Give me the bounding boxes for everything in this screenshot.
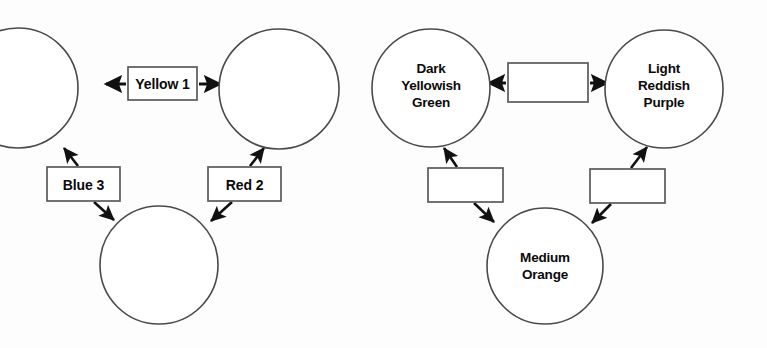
light-reddish-purple-label-line-3: Purple <box>644 95 686 110</box>
diagram-svg: Yellow 1 Blue 3 Red 2 Dark Yellowish Gre… <box>0 0 767 348</box>
medium-orange-label-line-1: Medium <box>520 250 570 265</box>
dark-yellowish-green-label-line-2: Yellowish <box>401 78 461 93</box>
left-top-right-circle <box>219 29 339 149</box>
left-bottom-circle <box>100 206 218 324</box>
connector-lower-right-box-to-medium-orange <box>592 204 611 223</box>
right-lower-left-empty-box <box>428 168 503 202</box>
medium-orange-label-line-2: Orange <box>522 267 569 282</box>
connector-red2-to-bottom-circle <box>211 202 232 221</box>
left-top-left-circle <box>0 28 78 148</box>
connector-lower-left-box-to-dark-yellowish-green <box>444 148 457 167</box>
left-group: Yellow 1 Blue 3 Red 2 <box>0 28 339 324</box>
medium-orange-circle <box>487 208 603 324</box>
blue-3-box-label: Blue 3 <box>63 177 105 193</box>
right-lower-right-empty-box <box>590 169 665 203</box>
diagram-canvas: Yellow 1 Blue 3 Red 2 Dark Yellowish Gre… <box>0 0 767 348</box>
dark-yellowish-green-label-line-1: Dark <box>416 61 446 76</box>
connector-lower-left-box-to-medium-orange <box>474 203 494 222</box>
yellow-1-box-label: Yellow 1 <box>135 76 190 92</box>
connector-blue3-to-bottom-circle <box>94 202 114 220</box>
light-reddish-purple-label-line-2: Reddish <box>638 78 690 93</box>
connector-red2-to-top-right-circle <box>250 148 264 166</box>
right-group: Dark Yellowish Green Light Reddish Purpl… <box>372 29 723 324</box>
connector-lower-right-box-to-light-reddish-purple <box>631 147 647 168</box>
red-2-box-label: Red 2 <box>226 177 264 193</box>
dark-yellowish-green-label-line-3: Green <box>412 95 450 110</box>
light-reddish-purple-label-line-1: Light <box>648 61 681 76</box>
connector-blue3-to-top-left-circle <box>64 148 78 166</box>
right-top-empty-box <box>508 63 588 102</box>
